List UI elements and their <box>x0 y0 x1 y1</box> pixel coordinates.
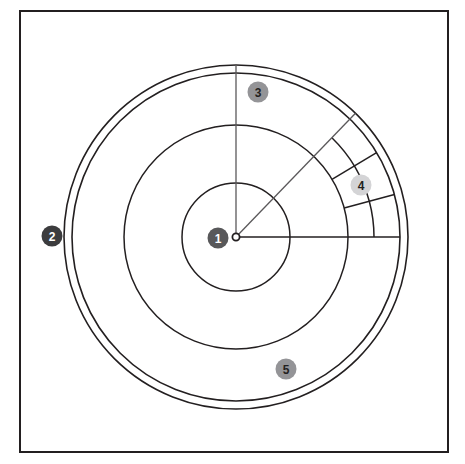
callout-5[interactable]: 5 <box>276 359 297 380</box>
callout-3-label: 3 <box>255 86 262 100</box>
sector-arc-mid-band <box>369 201 374 237</box>
figure-root: 12345 <box>0 0 465 464</box>
sector-divider-31 <box>332 153 377 180</box>
callout-1-label: 1 <box>215 232 222 246</box>
callout-2-label: 2 <box>49 230 56 244</box>
center-point-marker <box>232 233 239 240</box>
sector-divider-15 <box>344 195 394 208</box>
callout-3[interactable]: 3 <box>248 82 269 103</box>
center-point-layer <box>232 233 239 240</box>
callout-1[interactable]: 1 <box>208 228 229 249</box>
callout-4[interactable]: 4 <box>351 175 372 196</box>
diagram-canvas: 12345 <box>0 0 465 464</box>
callout-markers-layer: 12345 <box>42 82 372 380</box>
outer-frame <box>20 11 448 452</box>
callout-4-label: 4 <box>358 179 365 193</box>
callout-2[interactable]: 2 <box>42 226 63 247</box>
callout-5-label: 5 <box>283 363 290 377</box>
frame-layer <box>20 11 448 452</box>
